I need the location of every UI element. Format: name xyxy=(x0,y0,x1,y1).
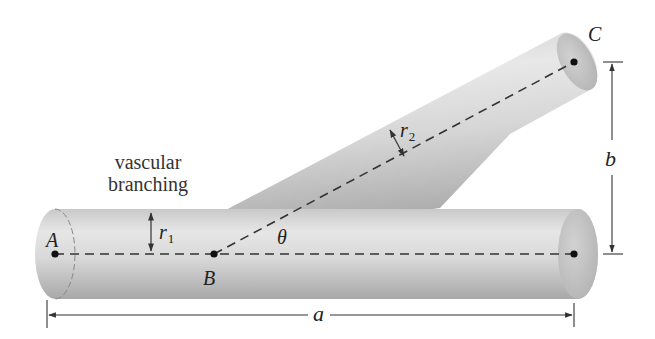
figure-caption: vascular branching xyxy=(88,151,208,195)
point-b-dot xyxy=(210,250,217,257)
r1-label: r1 xyxy=(159,222,174,245)
point-b-label: B xyxy=(203,268,215,288)
point-a-label: A xyxy=(46,230,58,250)
r2-symbol: r xyxy=(400,119,408,141)
end-dot xyxy=(570,250,577,257)
b-label: b xyxy=(605,148,616,170)
caption-line-2: branching xyxy=(88,173,208,195)
r2-subscript: 2 xyxy=(409,129,416,144)
a-label: a xyxy=(313,303,324,325)
point-c-dot xyxy=(570,58,577,65)
r2-label: r2 xyxy=(400,120,415,143)
caption-line-1: vascular xyxy=(88,151,208,173)
theta-label: θ xyxy=(277,227,287,247)
r1-symbol: r xyxy=(159,221,167,243)
a-dimension xyxy=(47,300,574,328)
point-a-dot xyxy=(51,250,58,257)
point-c-label: C xyxy=(588,24,601,44)
vascular-branching-figure: vascular branching A B C r1 r2 θ b a xyxy=(0,0,655,339)
r1-subscript: 1 xyxy=(168,231,175,246)
